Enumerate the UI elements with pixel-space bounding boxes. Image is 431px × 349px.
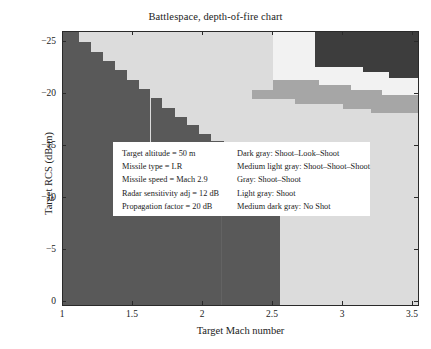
x-tick-label: 2.5 xyxy=(266,309,278,319)
legend-parameter-3: Radar sensitivity adj = 12 dB xyxy=(122,187,233,200)
y-tick-mark xyxy=(414,301,418,302)
region-shoot-look-shoot xyxy=(315,32,419,67)
legend-key-2: Gray: Shoot–Shoot xyxy=(237,173,370,186)
y-tick-mark xyxy=(414,41,418,42)
y-tick-mark xyxy=(62,197,66,198)
y-tick-mark xyxy=(414,93,418,94)
figure: Battlespace, depth-of-fire chart 11.522.… xyxy=(0,0,431,349)
step-sls-ext2 xyxy=(389,72,419,77)
legend-key-0: Dark gray: Shoot–Look–Shoot xyxy=(237,147,370,160)
chart-title: Battlespace, depth-of-fire chart xyxy=(0,11,431,22)
y-tick-mark xyxy=(62,41,66,42)
x-tick-mark xyxy=(272,301,273,305)
y-axis-title: Target RCS (dBsm) xyxy=(43,64,54,284)
x-tick-label: 1 xyxy=(60,309,65,319)
x-tick-label: 2 xyxy=(200,309,205,319)
x-tick-label: 3 xyxy=(340,309,345,319)
legend-key-3: Light gray: Shoot xyxy=(237,187,370,200)
no-shot-step-2 xyxy=(91,52,103,154)
legend-key-4: Medium dark gray: No Shot xyxy=(237,200,370,213)
legend-parameter-0: Target altitude = 50 m xyxy=(122,147,233,160)
y-tick-mark xyxy=(62,301,66,302)
y-tick-mark xyxy=(62,93,66,94)
y-tick-mark xyxy=(62,249,66,250)
x-tick-mark xyxy=(272,31,273,35)
no-shot-step-4 xyxy=(115,70,127,153)
y-tick-label: −25 xyxy=(41,36,56,46)
y-tick-mark xyxy=(62,145,66,146)
x-tick-mark xyxy=(202,31,203,35)
x-tick-mark xyxy=(342,31,343,35)
x-tick-label: 1.5 xyxy=(126,309,138,319)
legend-key-1: Medium light gray: Shoot–Shoot–Shoot xyxy=(237,160,370,173)
notch-d xyxy=(315,32,323,65)
y-tick-mark xyxy=(414,145,418,146)
x-tick-mark xyxy=(132,301,133,305)
step-shoot-shoot-ext3 xyxy=(371,109,419,113)
notch-c xyxy=(290,32,315,71)
y-tick-mark xyxy=(414,249,418,250)
no-shot-step-1 xyxy=(79,42,91,153)
legend-color-keys-column: Dark gray: Shoot–Look–ShootMedium light … xyxy=(233,147,370,216)
legend-parameter-1: Missile type = LR xyxy=(122,160,233,173)
legend-box: Target altitude = 50 mMissile type = LRM… xyxy=(113,142,370,216)
x-tick-mark xyxy=(412,31,413,35)
notch-a xyxy=(252,32,273,90)
x-axis-title: Target Mach number xyxy=(62,325,419,336)
x-tick-mark xyxy=(62,31,63,35)
x-tick-label: 3.5 xyxy=(406,309,418,319)
y-tick-label: 0 xyxy=(51,296,56,306)
x-tick-mark xyxy=(342,301,343,305)
legend-parameter-4: Propagation factor = 20 dB xyxy=(122,200,233,213)
legend-parameter-2: Missile speed = Mach 2.9 xyxy=(122,173,233,186)
x-tick-mark xyxy=(202,301,203,305)
legend-parameters-column: Target altitude = 50 mMissile type = LRM… xyxy=(113,147,233,216)
x-tick-mark xyxy=(132,31,133,35)
y-tick-mark xyxy=(414,197,418,198)
notch-b xyxy=(273,32,290,78)
x-tick-mark xyxy=(412,301,413,305)
no-shot-step-3 xyxy=(103,61,115,153)
